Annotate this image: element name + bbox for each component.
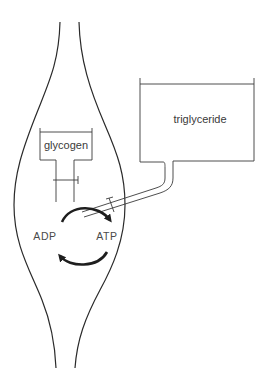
glycogen-label: glycogen [44, 139, 88, 151]
triglyceride-container [82, 78, 254, 217]
cycle-arrow-bottom [60, 252, 107, 265]
triglyceride-label: triglyceride [173, 113, 226, 125]
glycogen-store: glycogen [40, 128, 92, 202]
triglyceride-store: triglyceride [82, 78, 254, 217]
muscle-energy-diagram: glycogen triglyceride ADP ATP [0, 0, 268, 383]
muscle-outline-left [14, 22, 60, 368]
atp-label: ATP [96, 230, 117, 242]
fatty-acid-valve [109, 198, 114, 212]
adp-atp-cycle: ADP ATP [33, 208, 117, 264]
adp-label: ADP [33, 230, 56, 242]
muscle-outline-right [75, 22, 125, 368]
